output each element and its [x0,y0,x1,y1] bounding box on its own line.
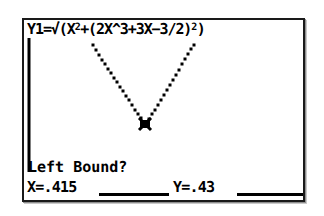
x-readout-underline [99,193,169,196]
y-coordinate-readout: Y=.43 [173,180,214,195]
calculator-screen: Y1=√(X2+(2X^3+3X−3/2)2) Left Bound? X=.4… [22,18,305,202]
trace-cursor[interactable] [139,118,151,130]
y-readout-underline [237,193,305,196]
function-curve [92,44,196,126]
x-coordinate-readout: X=.415 [27,180,76,195]
prompt-label: Left Bound? [28,160,127,175]
coordinate-readout-row: X=.415 Y=.43 [27,180,305,200]
